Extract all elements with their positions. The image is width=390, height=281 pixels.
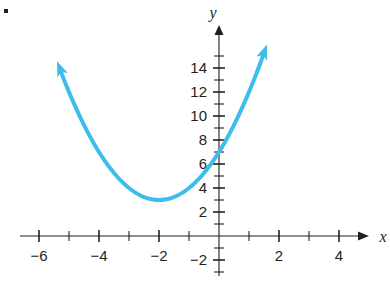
x-axis-arrow-icon — [358, 232, 369, 241]
y-axis-label: y — [207, 4, 217, 22]
y-tick-label: 8 — [199, 131, 207, 148]
y-tick-label: −2 — [190, 251, 207, 268]
y-axis-arrow-icon — [215, 25, 224, 35]
graph-figure: −6 −4 −2 2 4 −2 2 4 6 8 10 12 14 y x — [0, 0, 390, 281]
x-tick-label: −6 — [30, 247, 47, 264]
parabola-curve — [62, 57, 263, 200]
bullet-marker-icon — [4, 9, 8, 13]
coordinate-plane-svg: −6 −4 −2 2 4 −2 2 4 6 8 10 12 14 y x — [0, 0, 390, 281]
x-tick-label: −4 — [90, 247, 107, 264]
x-axis-tick-labels: −6 −4 −2 2 4 — [30, 247, 343, 264]
y-tick-label: 12 — [190, 83, 207, 100]
x-tick-label: −2 — [150, 247, 167, 264]
y-tick-label: 4 — [199, 179, 207, 196]
x-tick-label: 2 — [275, 247, 283, 264]
y-tick-label: 2 — [199, 203, 207, 220]
x-axis — [20, 232, 369, 241]
parabola-curve-group — [57, 44, 267, 200]
y-tick-label: 14 — [190, 59, 207, 76]
y-axis-tick-labels: −2 2 4 6 8 10 12 14 — [190, 59, 207, 268]
x-tick-label: 4 — [335, 247, 343, 264]
y-tick-label: 10 — [190, 107, 207, 124]
x-axis-label: x — [378, 228, 386, 245]
